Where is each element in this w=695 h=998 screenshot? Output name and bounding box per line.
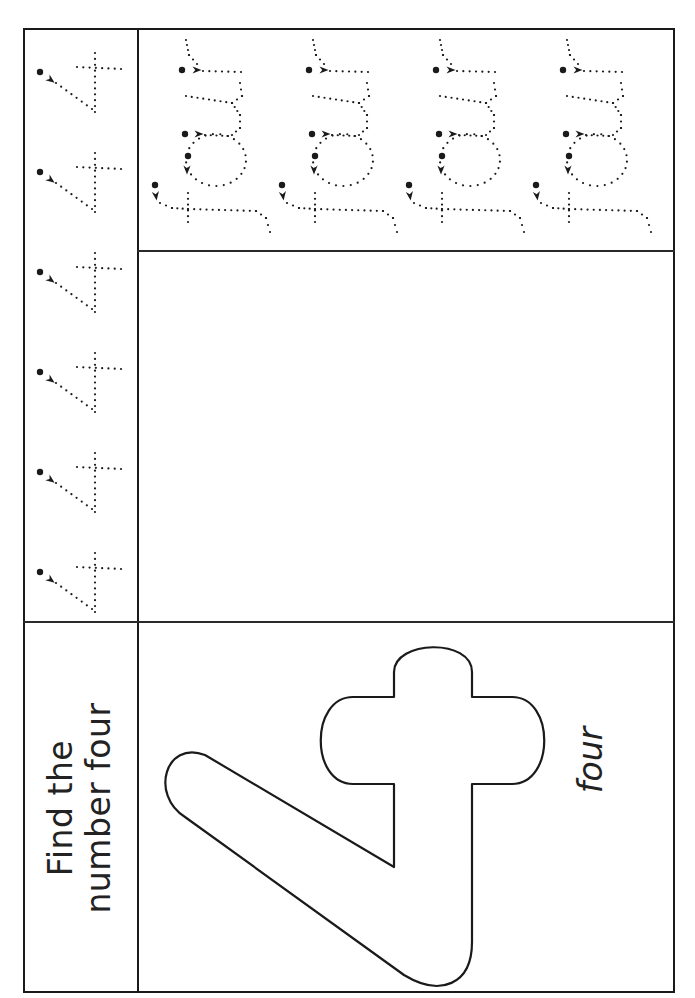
- start-dot-icon: [152, 182, 158, 188]
- direction-arrow-icon: [533, 191, 540, 200]
- direction-arrow-icon: [564, 166, 571, 175]
- direction-arrow-icon: [279, 191, 286, 200]
- direction-arrow-icon: [310, 166, 317, 175]
- start-dot-icon: [406, 182, 412, 188]
- start-dot-icon: [433, 67, 439, 73]
- start-dot-icon: [436, 131, 442, 137]
- direction-arrow-icon: [447, 66, 456, 73]
- direction-arrow-icon: [437, 166, 444, 175]
- start-dot-icon: [533, 182, 539, 188]
- direction-arrow-icon: [195, 130, 204, 137]
- direction-arrow-icon: [406, 191, 413, 200]
- start-dot-icon: [309, 131, 315, 137]
- trace-word-4: [533, 39, 652, 233]
- direction-arrow-icon: [183, 166, 190, 175]
- worksheet-page: Find the number four four: [0, 0, 695, 998]
- start-dot-icon: [560, 67, 566, 73]
- start-dot-icon: [182, 131, 188, 137]
- trace-words-row: [0, 0, 695, 998]
- trace-word-3: [406, 39, 525, 233]
- start-dot-icon: [279, 182, 285, 188]
- start-dot-icon: [312, 153, 318, 159]
- direction-arrow-icon: [576, 130, 585, 137]
- direction-arrow-icon: [322, 130, 331, 137]
- direction-arrow-icon: [320, 66, 329, 73]
- trace-word-1: [152, 39, 271, 233]
- start-dot-icon: [566, 153, 572, 159]
- start-dot-icon: [563, 131, 569, 137]
- direction-arrow-icon: [449, 130, 458, 137]
- start-dot-icon: [179, 67, 185, 73]
- start-dot-icon: [185, 153, 191, 159]
- trace-word-2: [279, 39, 398, 233]
- start-dot-icon: [306, 67, 312, 73]
- start-dot-icon: [439, 153, 445, 159]
- direction-arrow-icon: [152, 191, 159, 200]
- direction-arrow-icon: [574, 66, 583, 73]
- direction-arrow-icon: [193, 66, 202, 73]
